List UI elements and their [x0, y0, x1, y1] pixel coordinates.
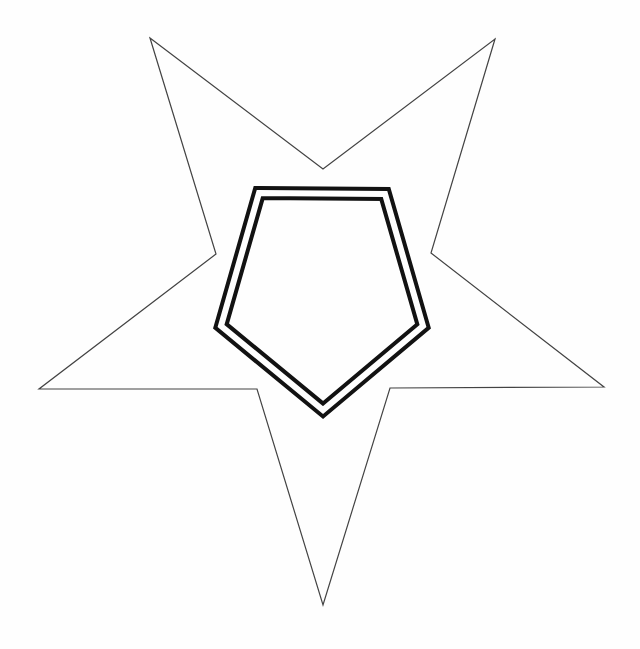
drawing-canvas	[0, 0, 640, 649]
star-outline	[39, 38, 604, 605]
star-pentagon-figure	[0, 0, 640, 649]
pentagon-white-gap	[221, 193, 423, 410]
